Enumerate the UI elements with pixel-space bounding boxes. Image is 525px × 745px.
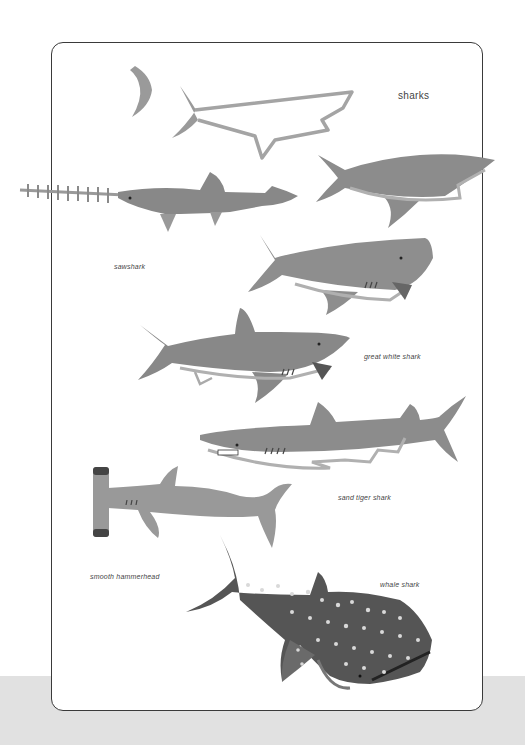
label-whale-shark: whale shark — [380, 581, 420, 588]
white-shark-illustration — [248, 235, 433, 315]
shark-illustrations — [0, 0, 525, 745]
crescent-fin-illustration — [130, 66, 152, 117]
sand-tiger-shark-illustration — [200, 396, 466, 468]
outline-shark-illustration — [172, 86, 352, 158]
great-white-shark-illustration — [138, 308, 350, 403]
label-smooth-hammerhead: smooth hammerhead — [90, 573, 160, 580]
label-sand-tiger-shark: sand tiger shark — [338, 494, 391, 501]
label-sawshark: sawshark — [114, 263, 145, 270]
sawshark-illustration — [20, 172, 298, 232]
whale-shark-illustration — [186, 535, 432, 688]
hammerhead-shark-illustration — [93, 466, 292, 548]
page-title: sharks — [398, 90, 429, 101]
mako-shark-illustration — [316, 154, 495, 228]
label-great-white-shark: great white shark — [364, 353, 421, 360]
